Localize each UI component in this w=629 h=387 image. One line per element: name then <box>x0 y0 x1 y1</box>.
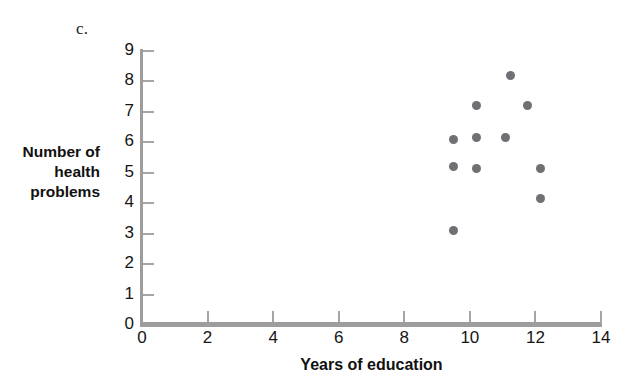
y-axis-tick-label: 4 <box>108 192 134 212</box>
y-axis-tick-label: 7 <box>108 101 134 121</box>
y-axis-tick-label: 8 <box>108 70 134 90</box>
x-axis-tick-label: 6 <box>322 328 356 348</box>
data-point <box>536 164 545 173</box>
x-axis-tick-label: 0 <box>125 328 159 348</box>
y-axis-tick-label: 6 <box>108 131 134 151</box>
x-axis-tick-label: 12 <box>518 328 552 348</box>
data-point <box>449 226 458 235</box>
y-axis-tick-label: 1 <box>108 284 134 304</box>
y-axis-tick-label: 9 <box>108 40 134 60</box>
x-axis-tick-label: 4 <box>256 328 290 348</box>
y-axis-tick-label: 5 <box>108 162 134 182</box>
x-axis-tick-label: 8 <box>387 328 421 348</box>
scatter-plot-figure: c. 0123456789 02468101214 Number ofhealt… <box>0 0 629 387</box>
y-axis-tick-label: 2 <box>108 253 134 273</box>
x-axis-tick-label: 2 <box>191 328 225 348</box>
y-axis-title: Number ofhealthproblems <box>8 142 100 202</box>
y-axis-title-line: problems <box>8 182 100 202</box>
x-axis-tick-label: 14 <box>584 328 618 348</box>
x-axis-title: Years of education <box>142 356 601 374</box>
data-point <box>536 194 545 203</box>
data-point <box>472 164 481 173</box>
y-axis-title-line: health <box>8 162 100 182</box>
plot-area <box>142 51 601 325</box>
y-axis-tick-label: 3 <box>108 223 134 243</box>
x-axis-tick-label: 10 <box>453 328 487 348</box>
data-point <box>449 135 458 144</box>
panel-letter: c. <box>76 19 88 39</box>
y-axis-title-line: Number of <box>8 142 100 162</box>
data-point <box>523 101 532 110</box>
